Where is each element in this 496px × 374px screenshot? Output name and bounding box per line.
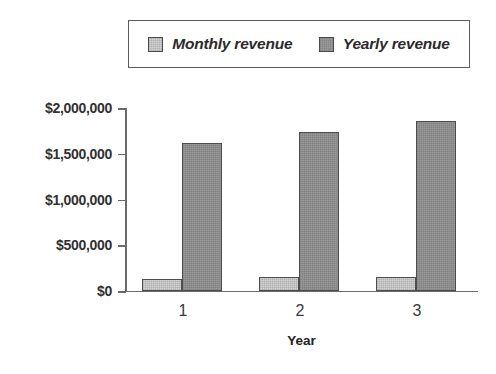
bar-group-3 [359, 108, 476, 291]
x-axis-title: Year [125, 333, 478, 348]
monthly-swatch-icon [148, 37, 163, 52]
y-tick-label-0: $0 [8, 283, 112, 299]
legend-item-yearly-revenue: Yearly revenue [319, 35, 450, 53]
y-tick-label-1500000: $1,500,000 [8, 146, 112, 162]
legend-item-monthly-revenue: Monthly revenue [148, 35, 292, 53]
bar-yearly-revenue-year-3 [416, 121, 456, 291]
bar-group-1 [125, 108, 242, 291]
bar-monthly-revenue-year-2 [259, 277, 299, 291]
bar-chart: Monthly revenue Yearly revenue $2,000,00… [0, 0, 496, 374]
bar-yearly-revenue-year-1 [182, 143, 222, 291]
y-tick-label-500000: $500,000 [8, 237, 112, 253]
bar-group-2 [242, 108, 359, 291]
x-tick-label-3: 3 [387, 302, 447, 320]
x-tick-label-2: 2 [270, 302, 330, 320]
legend-label-yearly-revenue: Yearly revenue [343, 35, 450, 53]
plot-area [125, 108, 477, 291]
legend-label-monthly-revenue: Monthly revenue [172, 35, 292, 53]
chart-legend: Monthly revenue Yearly revenue [128, 20, 470, 68]
y-tick-label-2000000: $2,000,000 [8, 100, 112, 116]
bar-yearly-revenue-year-2 [299, 132, 339, 291]
x-tick-label-1: 1 [153, 302, 213, 320]
bar-monthly-revenue-year-3 [376, 277, 416, 291]
y-tick-label-1000000: $1,000,000 [8, 192, 112, 208]
bar-monthly-revenue-year-1 [142, 279, 182, 291]
yearly-swatch-icon [319, 37, 334, 52]
